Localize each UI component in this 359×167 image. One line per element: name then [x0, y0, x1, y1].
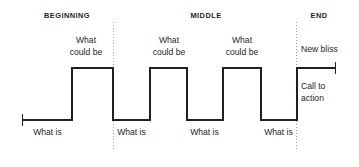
trough-label-3: What is	[177, 127, 232, 139]
peak-label-1: What could be	[58, 35, 114, 58]
new-bliss-label: New bliss	[301, 44, 359, 56]
phase-label-beginning: BEGINNING	[36, 11, 98, 21]
call-to-action-label: Call to action	[301, 81, 359, 104]
sparkline-diagram: BEGINNING MIDDLE END What could be What …	[0, 0, 359, 167]
trough-label-2: What is	[104, 127, 159, 139]
peak-label-3: What could be	[214, 35, 270, 58]
phase-label-end: END	[297, 11, 341, 21]
phase-label-middle: MIDDLE	[175, 11, 237, 21]
trough-label-1: What is	[20, 127, 75, 139]
peak-label-2: What could be	[141, 35, 197, 58]
trough-label-4: What is	[251, 127, 306, 139]
sparkline-path	[22, 68, 336, 120]
